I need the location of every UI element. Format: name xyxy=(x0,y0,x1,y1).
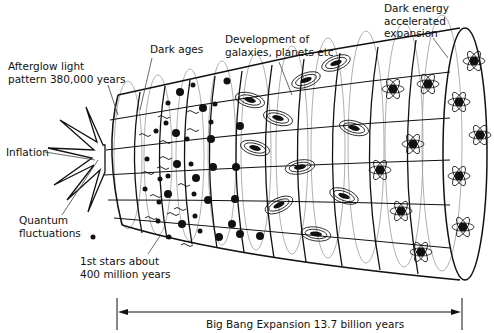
label-quantum-fluctuations: Quantum fluctuations xyxy=(19,214,81,239)
label-development: Development of galaxies, planets etc xyxy=(225,33,334,58)
label-dark-ages: Dark ages xyxy=(150,43,203,56)
galaxies xyxy=(234,51,371,243)
stars xyxy=(369,49,491,263)
label-dark-energy: Dark energy accelerated expansion xyxy=(384,2,449,40)
label-afterglow: Afterglow light pattern 380,000 years xyxy=(8,60,126,85)
label-first-stars: 1st stars about 400 million years xyxy=(80,255,171,280)
squiggles xyxy=(139,111,199,247)
label-inflation: Inflation xyxy=(6,146,49,159)
inflation-starburst xyxy=(48,107,105,212)
label-timeline: Big Bang Expansion 13.7 billion years xyxy=(206,318,404,331)
